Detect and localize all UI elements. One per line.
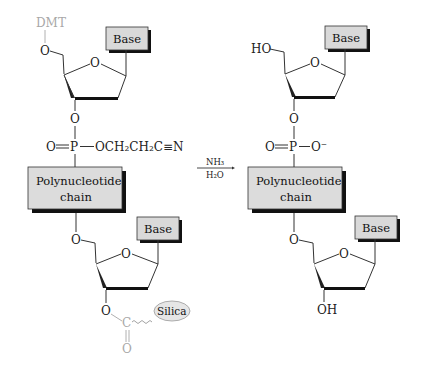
phosphorus: P [70,140,78,154]
product-bottom-base-label: Base [362,221,390,235]
product-three-prime-oxygen: O [289,112,299,126]
reaction-diagram: DMT O Base O O O P OCH₂CH₂C≡N [0,0,422,370]
top-ring-oxygen: O [90,56,100,70]
product-top-sugar-ring: O [285,56,345,98]
product-five-prime-oxygen-bottom: O [289,233,299,247]
five-prime-oxygen: O [40,44,50,58]
reactant-structure: DMT O Base O O O P OCH₂CH₂C≡N [28,16,190,356]
bottom-sugar-ring: O [96,247,158,289]
product-phosphorus: P [289,140,297,154]
carbonyl-oxygen: O [122,342,132,356]
product-bottom-sugar-ring: O [314,247,375,289]
three-prime-oxygen-bottom: O [101,304,111,318]
reagent-h2o: H₂O [206,170,224,180]
arrow-head-icon [232,167,235,170]
product-phosphate-anion: O⁻ [311,140,327,154]
top-sugar-ring: O [64,56,126,99]
dmt-label: DMT [36,16,66,30]
product-chain-label-line1: Polynucleotide [256,174,342,188]
reagent-nh3: NH₃ [206,157,224,167]
silica-support: Silica [154,301,190,321]
phosphate-double-oxygen: O [46,140,56,154]
bottom-ring-oxygen: O [121,247,131,261]
bottom-base-box: Base [137,217,182,243]
product-structure: HO Base O O O P O⁻ [248,26,400,317]
product-bottom-ring-oxygen: O [339,247,349,261]
top-base-box: Base [106,27,151,53]
product-top-ring-oxygen: O [310,56,320,70]
chain-label-line2: chain [60,190,92,204]
cyanoethyl-group: OCH₂CH₂C≡N [95,140,184,154]
wavy-bond [132,321,152,324]
three-prime-oxygen-top: O [70,112,80,126]
product-polynucleotide-chain-box: Polynucleotide chain [248,167,346,213]
hydroxyl-5-prime: HO [251,42,271,56]
top-base-label: Base [113,32,141,46]
product-phosphate-double-oxygen: O [265,140,275,154]
reaction-arrow: NH₃ H₂O [197,157,235,180]
carbonyl-carbon: C [122,316,131,330]
silica-label: Silica [157,305,186,317]
product-chain-label-line2: chain [280,190,312,204]
product-top-base-box: Base [325,26,370,52]
polynucleotide-chain-box: Polynucleotide chain [28,167,126,213]
chain-label-line1: Polynucleotide [36,174,122,188]
hydroxyl-3-prime: OH [317,303,337,317]
five-prime-oxygen-bottom: O [71,233,81,247]
product-top-base-label: Base [332,31,360,45]
product-bottom-base-box: Base [355,216,400,242]
bottom-base-label: Base [144,222,172,236]
